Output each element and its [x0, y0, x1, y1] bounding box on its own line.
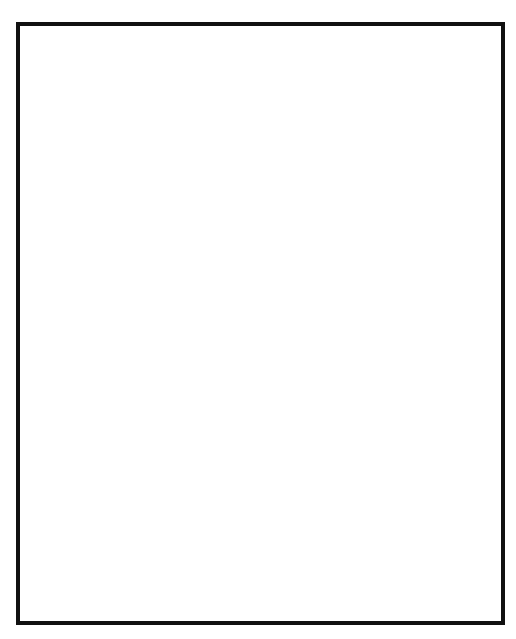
vault-drawing	[0, 0, 516, 639]
plate-frame	[18, 24, 503, 623]
figure-root	[0, 0, 516, 639]
